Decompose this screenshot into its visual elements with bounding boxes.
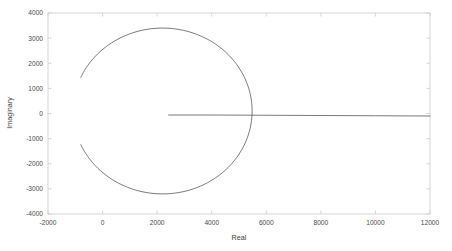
y-tick-label: -4000 (26, 210, 43, 217)
y-tick-label: -1000 (26, 135, 43, 142)
data-series-group (81, 28, 430, 194)
plot-border (48, 13, 430, 214)
x-tick-label: 0 (101, 219, 105, 226)
y-tick-label: 2000 (28, 60, 43, 67)
y-tick-label: -3000 (26, 185, 43, 192)
chart-canvas: -2000020004000600080001000012000 -4000-3… (0, 0, 452, 251)
y-axis-title: Imaginary (5, 97, 14, 129)
series-real-axis-branch (169, 115, 430, 116)
x-axis-ticks (48, 13, 430, 214)
y-tick-label: -2000 (26, 160, 43, 167)
x-tick-label: 12000 (421, 219, 440, 226)
x-tick-label: 6000 (259, 219, 274, 226)
x-axis-title: Real (232, 233, 247, 242)
x-tick-label: -2000 (40, 219, 57, 226)
series-circular-branch (81, 28, 252, 194)
y-axis-tick-labels: -4000-3000-2000-100001000200030004000 (26, 9, 43, 217)
x-tick-label: 10000 (366, 219, 385, 226)
x-tick-label: 2000 (150, 219, 165, 226)
y-tick-label: 3000 (28, 35, 43, 42)
y-tick-label: 0 (39, 110, 43, 117)
y-tick-label: 1000 (28, 85, 43, 92)
x-tick-label: 4000 (204, 219, 219, 226)
plot-frame (48, 13, 430, 214)
y-tick-label: 4000 (28, 9, 43, 16)
x-tick-label: 8000 (314, 219, 329, 226)
figure-container: -2000020004000600080001000012000 -4000-3… (0, 0, 452, 251)
y-axis-ticks (48, 13, 430, 214)
x-axis-tick-labels: -2000020004000600080001000012000 (40, 219, 440, 226)
